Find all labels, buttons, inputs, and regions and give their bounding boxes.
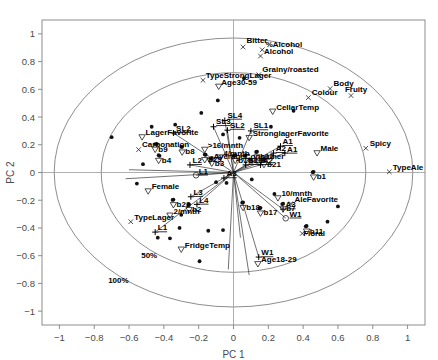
- x-tick-label: 0.2: [262, 332, 275, 343]
- data-point: [221, 132, 225, 136]
- point-labels: Bitter%AlcoholAlcoholGrainy/roastedTypeS…: [134, 36, 424, 264]
- data-point: [216, 99, 220, 103]
- segment-label-SL2: SL2: [230, 121, 245, 130]
- x-tick-label: −0.4: [154, 332, 173, 343]
- FridgeTemp-triangle-down-icon: [178, 247, 184, 252]
- y-tick-label: −0.2: [16, 195, 35, 206]
- beer-point: [157, 153, 161, 157]
- data-point: [168, 236, 172, 240]
- y-tick-label: 1: [30, 28, 35, 39]
- ellipse-label: 100%: [108, 276, 128, 285]
- data-point: [326, 220, 330, 224]
- attribute-label-CellarTemp: CellarTemp: [276, 103, 319, 112]
- beer-point: [172, 198, 176, 202]
- attribute-label-Spicy: Spicy: [370, 139, 392, 148]
- 10/mnth-triangle-down-icon: [275, 196, 281, 201]
- beer-label-b2: b2: [192, 205, 202, 214]
- ellipse-label: 50%: [141, 251, 157, 260]
- x-tick-label: 1: [405, 332, 410, 343]
- vector-ray: [129, 170, 233, 173]
- vector-ray: [234, 173, 259, 258]
- y-tick-label: −0.8: [16, 278, 35, 289]
- TypeAle-x-marker: [387, 170, 392, 175]
- Carbonation-x-marker: [136, 147, 141, 152]
- data-point: [214, 180, 218, 184]
- beer-label-b8: b8: [185, 147, 195, 156]
- TypeStrongLager-x-marker: [201, 78, 206, 83]
- vector-ray: [228, 173, 233, 270]
- beer-point: [312, 170, 316, 174]
- segment-label-L2: L2: [193, 156, 203, 165]
- data-point: [198, 259, 202, 263]
- segment-label-L4: L4: [199, 196, 209, 205]
- data-point: [336, 205, 340, 209]
- attribute-label-Colour: Colour: [312, 88, 338, 97]
- attribute-label-TypeAle: TypeAle: [393, 163, 424, 172]
- attribute-label-Alcohol: Alcohol: [264, 47, 293, 56]
- beer-label-b7: b7: [286, 204, 296, 213]
- data-point: [206, 229, 210, 233]
- TypeLager-x-marker: [128, 219, 133, 224]
- Alcohol-x-marker: [258, 54, 263, 59]
- x-tick-label: −0.2: [189, 332, 208, 343]
- data-point: [221, 228, 225, 232]
- y-tick-label: 0.8: [22, 56, 35, 67]
- x-tick-label: −0.6: [120, 332, 139, 343]
- beer-label-b22: b22: [177, 200, 191, 209]
- attribute-label-Age30-59: Age30-59: [221, 78, 257, 87]
- beer-label-b18: b18: [246, 203, 260, 212]
- data-point: [178, 226, 182, 230]
- data-point: [238, 136, 242, 140]
- beer-label-b9: b9: [158, 145, 168, 154]
- W1-circle-marker: [283, 215, 289, 221]
- attribute-label-FridgeTemp: FridgeTemp: [185, 241, 230, 250]
- y-tick-label: −0.4: [16, 222, 35, 233]
- data-point: [199, 111, 203, 115]
- attribute-label-Bitter: Bitter: [247, 36, 268, 45]
- y-axis-title: PC 2: [5, 161, 16, 184]
- data-point: [110, 135, 114, 139]
- pca-biplot: 50%100% Bitter%AlcoholAlcoholGrainy/roas…: [0, 0, 438, 360]
- beer-label-b1: b1: [317, 172, 327, 181]
- segment-label-A1: A1: [287, 145, 298, 154]
- attribute-label-AleFavorite: AleFavorite: [294, 195, 338, 204]
- data-point: [250, 178, 254, 182]
- segment-label-SL2: SL2: [176, 124, 191, 133]
- beer-label-b21: b21: [267, 160, 281, 169]
- y-tick-label: 0: [30, 167, 35, 178]
- y-tick-label: −1: [24, 306, 35, 317]
- beer-label-b3: b3: [215, 159, 225, 168]
- beer-point: [305, 224, 309, 228]
- y-tick-label: −0.6: [16, 250, 35, 261]
- Bitter-x-marker: [241, 45, 246, 50]
- x-tick-label: 0: [231, 332, 236, 343]
- x-tick-label: −1: [54, 332, 65, 343]
- biplot-svg: 50%100% Bitter%AlcoholAlcoholGrainy/roas…: [0, 0, 438, 360]
- vector-ray: [234, 173, 250, 276]
- segment-label-SL1: SL1: [254, 121, 269, 130]
- data-point: [135, 182, 139, 186]
- segment-label-L1: L1: [199, 167, 209, 176]
- y-tick-label: 0.2: [22, 139, 35, 150]
- CellarTemp-triangle-down-icon: [269, 109, 275, 114]
- data-point: [141, 162, 145, 166]
- Colour-x-marker: [306, 95, 311, 100]
- beer-label-b17: b17: [264, 208, 278, 217]
- Female-triangle-down-icon: [145, 189, 151, 194]
- data-point: [225, 181, 229, 185]
- y-tick-label: 0.6: [22, 84, 35, 95]
- vector-ray: [126, 173, 234, 179]
- x-tick-label: −0.8: [85, 332, 104, 343]
- beer-label-b11: b11: [310, 227, 324, 236]
- attribute-label-Female: Female: [152, 182, 180, 191]
- segment-label-A2: A2: [276, 144, 287, 153]
- segment-label-SL3: SL3: [216, 117, 231, 126]
- beer-label-b4: b4: [162, 156, 172, 165]
- data-point: [269, 125, 273, 129]
- segment-label-L1: L1: [158, 223, 168, 232]
- x-tick-label: 0.6: [331, 332, 344, 343]
- Male-triangle-down-icon: [314, 151, 320, 156]
- Spicy-x-marker: [364, 146, 369, 151]
- segment-label-A3: A3: [227, 169, 238, 178]
- attribute-label-Fruity: Fruity: [345, 85, 368, 94]
